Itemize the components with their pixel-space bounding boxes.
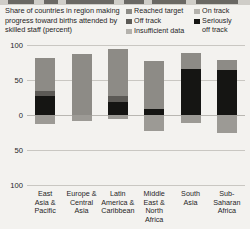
bar-segment <box>72 115 92 121</box>
y-axis-tick-label: 50 <box>0 76 23 85</box>
legend-item-insufficient-data: Insufficient data <box>126 27 194 36</box>
legend-label-on-track: On track <box>202 7 229 16</box>
bar-segment <box>35 58 55 92</box>
x-axis-labels: East Asia & PacificEurope & Central Asia… <box>27 190 245 229</box>
legend-label-seriously-off-track: Seriously off track <box>202 17 232 34</box>
chart-header: Share of countries in region making prog… <box>0 6 250 40</box>
bar-stack[interactable] <box>35 40 55 192</box>
bar-segment <box>144 61 164 109</box>
bar-segment <box>108 49 128 97</box>
bar-segment <box>108 96 128 102</box>
y-axis-tick-label: 0 <box>0 111 23 120</box>
legend-label-insufficient-data: Insufficient data <box>134 27 184 36</box>
y-axis-tick-label: 100 <box>0 181 23 190</box>
legend-label-reached-target: Reached target <box>134 7 183 16</box>
legend-item-on-track: On track <box>194 7 250 16</box>
bar-segment <box>108 102 128 115</box>
legend-column-left: Reached target Off track Insufficient da… <box>126 7 194 37</box>
plot-area: 10050050100 <box>0 40 250 192</box>
x-axis-label: Sub- Saharan Africa <box>206 190 248 216</box>
bar-segment <box>35 96 55 115</box>
bar-stack[interactable] <box>72 40 92 192</box>
chart-title: Share of countries in region making prog… <box>5 6 123 35</box>
legend-swatch-off-track <box>126 19 132 25</box>
top-crop-band <box>0 0 250 5</box>
bar-segment <box>144 115 164 131</box>
legend-item-off-track: Off track <box>126 17 194 26</box>
legend-swatch-on-track <box>194 9 200 15</box>
legend-column-right: On track Seriously off track <box>194 7 250 37</box>
bar-segment <box>181 115 201 123</box>
chart-legend: Reached target Off track Insufficient da… <box>126 7 250 37</box>
legend-swatch-reached-target <box>126 9 132 15</box>
legend-label-off-track: Off track <box>134 17 161 26</box>
bar-stack[interactable] <box>217 40 237 192</box>
legend-item-reached-target: Reached target <box>126 7 194 16</box>
legend-swatch-seriously-off-track <box>194 19 200 25</box>
legend-swatch-insufficient-data <box>126 29 132 35</box>
bar-stack[interactable] <box>144 40 164 192</box>
bar-segment <box>217 70 237 115</box>
legend-item-seriously-off-track: Seriously off track <box>194 17 250 34</box>
bar-stack[interactable] <box>181 40 201 192</box>
bar-segment <box>72 54 92 115</box>
chart-figure: Share of countries in region making prog… <box>0 0 250 229</box>
y-axis-tick-label: 100 <box>0 41 23 50</box>
bar-group <box>27 40 245 192</box>
bar-stack[interactable] <box>108 40 128 192</box>
bar-segment <box>217 60 237 70</box>
bar-segment <box>181 53 201 68</box>
bar-segment <box>181 69 201 115</box>
bar-segment <box>108 115 128 119</box>
bar-segment <box>217 115 237 133</box>
bar-segment <box>35 115 55 124</box>
bar-segment <box>35 91 55 96</box>
y-axis-tick-label: 50 <box>0 146 23 155</box>
